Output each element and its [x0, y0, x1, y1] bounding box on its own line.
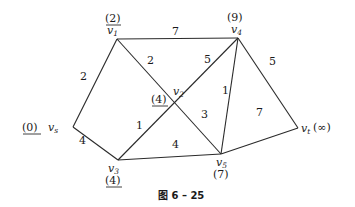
edge-v3-v5 [118, 154, 221, 160]
weight-v3-v5: 4 [172, 138, 179, 151]
node-vt-value: (∞) [313, 121, 331, 134]
node-v4: (9) v4 [227, 11, 243, 37]
weight-v4-vt: 5 [269, 55, 276, 68]
weight-vs-v3: 4 [79, 134, 86, 147]
node-v5-value: (7) [213, 168, 229, 181]
weight-v3-v4: 5 [204, 53, 211, 66]
edge-v5-vt [221, 128, 298, 154]
node-v1-label: v1 [107, 24, 118, 38]
weight-v3-v2: 1 [136, 119, 143, 132]
figure-caption: 图 6 – 25 [158, 190, 204, 201]
node-v2-value: (4) [151, 93, 167, 106]
weight-v5-vt: 7 [256, 106, 263, 119]
weight-v2-v5: 3 [201, 108, 208, 121]
node-v2-label: v2 [173, 85, 184, 99]
node-v3-value: (4) [105, 174, 121, 187]
weight-v5-v4: 1 [222, 84, 229, 97]
node-vs-label: vs [48, 121, 58, 135]
node-v3: v3 (4) [105, 162, 122, 187]
weight-v1-v4: 7 [172, 25, 179, 38]
node-vt: vt (∞) [301, 121, 331, 136]
edge-vs-v1 [73, 39, 117, 127]
node-v4-label: v4 [231, 23, 242, 37]
edge-v1-v4 [117, 38, 238, 39]
shortest-path-graph: 2 4 7 2 5 1 3 4 1 5 7 (0) vs (2) v1 (4) … [0, 0, 355, 207]
edge-v4-vt [238, 38, 298, 128]
node-v5: v5 (7) [213, 156, 229, 181]
node-vs: (0) vs [22, 121, 58, 135]
node-vt-label: vt [301, 122, 311, 136]
node-vs-value: (0) [22, 121, 38, 134]
weight-vs-v1: 2 [80, 70, 87, 83]
weight-v1-v5: 2 [147, 54, 154, 67]
node-v1: (2) v1 [105, 12, 121, 38]
